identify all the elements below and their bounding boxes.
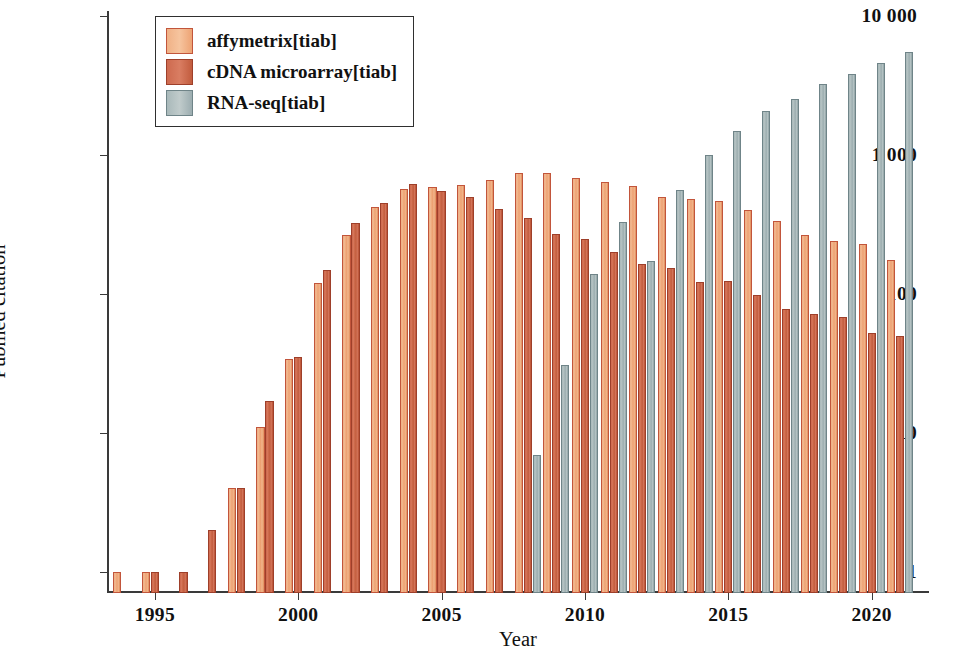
chart-figure: 1101001 00010 000 1995200020052010201520… <box>0 0 955 653</box>
bar-rnaseq-2012 <box>647 261 655 593</box>
chart-legend: affymetrix[tiab]cDNA microarray[tiab]RNA… <box>155 16 414 127</box>
bar-affymetrix-2010 <box>572 178 580 593</box>
bar-cdna-1997 <box>208 530 216 593</box>
x-tick-label: 2015 <box>708 604 748 626</box>
bar-affymetrix-1999 <box>256 427 264 593</box>
legend-swatch-rnaseq <box>166 90 193 116</box>
bar-affymetrix-2007 <box>486 180 494 593</box>
y-tick-mark <box>100 433 109 434</box>
bar-affymetrix-2002 <box>342 235 350 593</box>
bar-cdna-2015 <box>724 281 732 593</box>
bar-affymetrix-1994 <box>113 572 121 593</box>
bar-cdna-2007 <box>495 209 503 593</box>
legend-item: cDNA microarray[tiab] <box>166 56 397 87</box>
bar-rnaseq-2020 <box>877 63 885 593</box>
bar-affymetrix-2019 <box>830 241 838 593</box>
bar-affymetrix-1995 <box>142 572 150 593</box>
bar-rnaseq-2021 <box>905 52 913 593</box>
x-tick-label: 1995 <box>135 604 175 626</box>
bar-affymetrix-2020 <box>859 244 867 593</box>
bar-cdna-2003 <box>380 203 388 593</box>
bar-affymetrix-2021 <box>887 260 895 593</box>
bar-cdna-1998 <box>237 488 245 593</box>
bar-affymetrix-2006 <box>457 185 465 593</box>
bar-rnaseq-2013 <box>676 190 684 593</box>
bar-cdna-2012 <box>638 264 646 593</box>
legend-label: RNA-seq[tiab] <box>207 92 325 114</box>
legend-label: affymetrix[tiab] <box>207 30 337 52</box>
bar-affymetrix-2000 <box>285 359 293 593</box>
y-tick-mark <box>100 155 109 156</box>
bar-rnaseq-2014 <box>705 155 713 593</box>
bar-cdna-2001 <box>323 270 331 593</box>
legend-swatch-affymetrix <box>166 28 193 54</box>
bar-affymetrix-2015 <box>715 201 723 593</box>
bar-cdna-2011 <box>610 252 618 593</box>
y-tick-mark <box>100 572 109 573</box>
bar-cdna-2006 <box>466 197 474 593</box>
bar-cdna-2021 <box>896 336 904 593</box>
bar-cdna-2000 <box>294 357 302 593</box>
bar-cdna-2008 <box>524 218 532 593</box>
bar-affymetrix-2003 <box>371 207 379 593</box>
legend-item: affymetrix[tiab] <box>166 25 397 56</box>
bar-rnaseq-2008 <box>533 455 541 593</box>
bar-affymetrix-2009 <box>543 173 551 593</box>
bar-cdna-2020 <box>868 333 876 593</box>
x-tick-label: 2020 <box>852 604 892 626</box>
bar-rnaseq-2011 <box>619 222 627 593</box>
bar-cdna-2014 <box>696 282 704 593</box>
bar-cdna-2010 <box>581 239 589 593</box>
bar-cdna-2018 <box>810 314 818 593</box>
bar-cdna-2017 <box>782 309 790 593</box>
bar-affymetrix-2014 <box>687 199 695 593</box>
bar-rnaseq-2016 <box>762 111 770 593</box>
y-tick-mark <box>100 16 109 17</box>
legend-item: RNA-seq[tiab] <box>166 87 397 118</box>
bar-rnaseq-2009 <box>561 365 569 593</box>
bar-cdna-1995 <box>151 572 159 593</box>
x-tick-label: 2000 <box>278 604 318 626</box>
x-tick-label: 2005 <box>421 604 461 626</box>
bar-affymetrix-2005 <box>428 187 436 593</box>
bar-cdna-2013 <box>667 268 675 593</box>
bar-rnaseq-2015 <box>733 131 741 593</box>
bar-affymetrix-2001 <box>314 283 322 593</box>
bar-affymetrix-2004 <box>400 189 408 593</box>
bar-cdna-2004 <box>409 184 417 593</box>
x-axis-title: Year <box>107 628 929 651</box>
bar-cdna-1999 <box>265 401 273 593</box>
bar-affymetrix-2012 <box>629 186 637 593</box>
bar-cdna-1996 <box>179 572 187 593</box>
legend-swatch-cdna <box>166 59 193 85</box>
y-tick-mark <box>100 294 109 295</box>
bar-affymetrix-2013 <box>658 197 666 593</box>
bar-affymetrix-2018 <box>801 235 809 593</box>
bar-rnaseq-2018 <box>819 84 827 593</box>
bar-affymetrix-2017 <box>773 221 781 593</box>
bar-cdna-2009 <box>552 234 560 593</box>
x-tick-label: 2010 <box>565 604 605 626</box>
legend-label: cDNA microarray[tiab] <box>207 61 397 83</box>
bar-affymetrix-2016 <box>744 210 752 593</box>
bar-affymetrix-2008 <box>515 173 523 593</box>
bar-cdna-2005 <box>437 191 445 593</box>
bar-cdna-2002 <box>351 223 359 593</box>
bar-rnaseq-2010 <box>590 274 598 593</box>
bar-cdna-2019 <box>839 317 847 593</box>
y-axis-title: Pubmed citation <box>0 245 10 379</box>
bar-affymetrix-2011 <box>601 182 609 593</box>
bar-affymetrix-1998 <box>228 488 236 593</box>
bar-rnaseq-2019 <box>848 74 856 593</box>
bar-cdna-2016 <box>753 295 761 593</box>
bar-rnaseq-2017 <box>791 99 799 593</box>
